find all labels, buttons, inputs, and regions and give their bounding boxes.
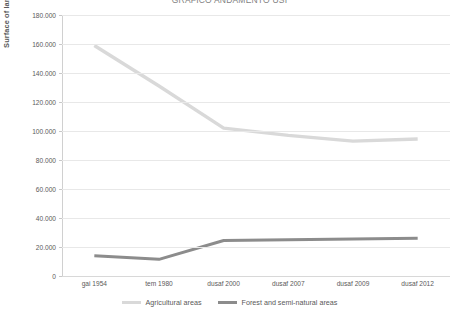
series-lines xyxy=(62,15,450,276)
y-axis-tick-label: 100.000 xyxy=(0,128,56,135)
gridline xyxy=(62,160,450,161)
gridline xyxy=(62,44,450,45)
y-axis-tick-label: 80.000 xyxy=(0,157,56,164)
chart-title: GRAFICO ANDAMENTO USI xyxy=(0,0,459,4)
gridline xyxy=(62,102,450,103)
legend-item[interactable]: Forest and semi-natural areas xyxy=(218,298,338,307)
gridline xyxy=(62,276,450,277)
x-axis-tick-label: dusaf 2000 xyxy=(189,280,259,287)
x-axis-tick-label: dusaf 2007 xyxy=(253,280,323,287)
plot-area xyxy=(62,15,450,276)
series-line xyxy=(94,238,417,259)
legend-label: Agricultural areas xyxy=(146,298,202,307)
gridline xyxy=(62,131,450,132)
y-axis-tick-label: 60.000 xyxy=(0,186,56,193)
gridline xyxy=(62,247,450,248)
y-axis-tick-label: 20.000 xyxy=(0,244,56,251)
gridline xyxy=(62,218,450,219)
y-axis-tick-label: 0 xyxy=(0,273,56,280)
line-chart: GRAFICO ANDAMENTO USI Surface of land us… xyxy=(0,0,459,317)
y-axis-tick-label: 180.000 xyxy=(0,12,56,19)
gridline xyxy=(62,189,450,190)
legend-label: Forest and semi-natural areas xyxy=(242,298,338,307)
x-axis-tick-label: dusaf 2012 xyxy=(383,280,453,287)
chart-legend: Agricultural areasForest and semi-natura… xyxy=(0,298,459,307)
y-axis-tick-label: 40.000 xyxy=(0,215,56,222)
y-axis-tick-label: 140.000 xyxy=(0,70,56,77)
y-axis-tick-label: 160.000 xyxy=(0,41,56,48)
legend-swatch xyxy=(218,301,237,304)
series-line xyxy=(94,45,417,141)
x-axis-tick-labels: gai 1954tem 1980dusaf 2000dusaf 2007dusa… xyxy=(62,280,450,292)
x-axis-tick-label: gai 1954 xyxy=(59,280,129,287)
x-axis-tick-label: tem 1980 xyxy=(124,280,194,287)
x-axis-tick-label: dusaf 2009 xyxy=(318,280,388,287)
legend-item[interactable]: Agricultural areas xyxy=(122,298,202,307)
gridline xyxy=(62,15,450,16)
legend-swatch xyxy=(122,301,141,304)
y-axis-tick-label: 120.000 xyxy=(0,99,56,106)
gridline xyxy=(62,73,450,74)
